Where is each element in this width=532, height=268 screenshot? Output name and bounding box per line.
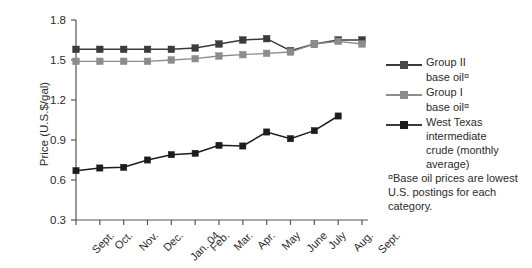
data-point-marker	[216, 142, 222, 148]
series-group	[73, 35, 366, 173]
data-point-marker	[120, 46, 127, 53]
y-tick-label: 1.8	[32, 14, 66, 26]
data-point-marker	[335, 113, 341, 119]
chart-legend: Group IIbase oil¤Group Ibase oil¤West Te…	[386, 55, 532, 172]
legend-label-line: Group II	[426, 55, 469, 69]
legend-footnote: ¤Base oil prices are lowest U.S. posting…	[388, 170, 530, 213]
data-point-marker	[97, 165, 103, 171]
legend-label-line: Group I	[426, 85, 469, 99]
y-tick-label: 0.9	[32, 134, 66, 146]
data-point-marker	[144, 58, 151, 65]
data-point-marker	[168, 152, 174, 158]
legend-item: Group IIbase oil¤	[386, 55, 532, 84]
y-tick-label: 1.2	[32, 94, 66, 106]
data-point-marker	[263, 35, 270, 42]
data-point-marker	[73, 168, 79, 174]
data-point-marker	[216, 53, 223, 60]
legend-label-line: West Texas	[426, 115, 499, 129]
data-point-marker	[120, 58, 127, 65]
legend-label-line: base oil¤	[426, 99, 469, 114]
series-line	[76, 116, 338, 171]
legend-label: West Texasintermediatecrude (monthlyaver…	[422, 115, 499, 171]
data-point-marker	[240, 143, 246, 149]
data-point-marker	[192, 55, 199, 62]
data-point-marker	[287, 49, 294, 56]
data-point-marker	[73, 46, 80, 53]
data-point-marker	[240, 51, 247, 58]
legend-label-line: average)	[426, 157, 499, 171]
legend-swatch-icon	[386, 118, 422, 132]
data-point-marker	[335, 38, 342, 45]
legend-swatch-icon	[386, 88, 422, 102]
data-point-marker	[144, 157, 150, 163]
data-point-marker	[168, 46, 175, 53]
legend-item: West Texasintermediatecrude (monthlyaver…	[386, 115, 532, 171]
data-point-marker	[311, 128, 317, 134]
data-point-marker	[192, 45, 199, 52]
data-point-marker	[359, 41, 366, 48]
legend-swatch-icon	[386, 58, 422, 72]
data-point-marker	[73, 58, 80, 65]
plot-area: Price (U.S.$/gal) 1.81.51.20.90.60.3 Sep…	[0, 0, 380, 268]
legend-label-line: intermediate	[426, 129, 499, 143]
data-point-marker	[168, 57, 175, 64]
data-point-marker	[287, 136, 293, 142]
y-tick-label: 0.6	[32, 174, 66, 186]
data-point-marker	[240, 37, 247, 44]
legend-label-line: base oil¤	[426, 69, 469, 84]
data-point-marker	[144, 46, 151, 53]
data-point-marker	[97, 46, 104, 53]
axis-group	[71, 20, 368, 225]
data-point-marker	[97, 58, 104, 65]
data-point-marker	[263, 50, 270, 57]
legend-item: Group Ibase oil¤	[386, 85, 532, 114]
footnote-text: Base oil prices are lowest U.S. postings…	[388, 172, 518, 212]
data-point-marker	[311, 41, 318, 48]
data-point-marker	[216, 41, 223, 48]
legend-label-line: crude (monthly	[426, 143, 499, 157]
legend-label: Group Ibase oil¤	[422, 85, 469, 114]
chart-figure: Price (U.S.$/gal) 1.81.51.20.90.60.3 Sep…	[0, 0, 532, 268]
data-point-marker	[192, 150, 198, 156]
legend-label: Group IIbase oil¤	[422, 55, 469, 84]
y-tick-label: 1.5	[32, 54, 66, 66]
footnote-marker-icon: ¤	[464, 71, 469, 81]
data-point-marker	[121, 164, 127, 170]
footnote-marker-icon: ¤	[464, 101, 469, 111]
y-tick-label: 0.3	[32, 214, 66, 226]
data-point-marker	[264, 129, 270, 135]
